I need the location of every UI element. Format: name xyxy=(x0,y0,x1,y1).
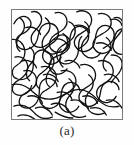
figure-caption: (a) xyxy=(0,121,134,141)
figure-root: (a) xyxy=(0,0,134,145)
polymer-chain-drawing xyxy=(12,10,122,119)
figure-frame xyxy=(11,9,123,120)
